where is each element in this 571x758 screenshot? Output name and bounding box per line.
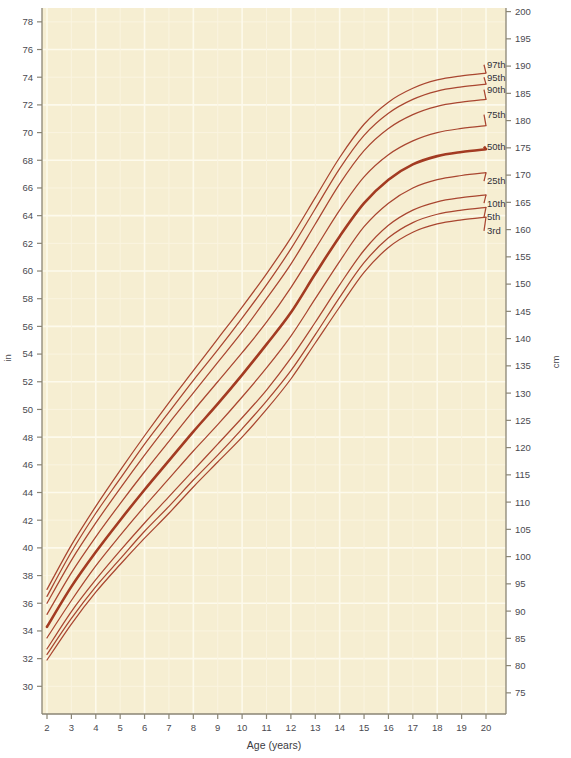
bottom-tick-label: 10: [237, 722, 248, 733]
bottom-tick-label: 6: [142, 722, 147, 733]
bottom-tick-label: 3: [69, 722, 74, 733]
right-tick-label: 135: [515, 360, 531, 371]
bottom-tick-label: 20: [481, 722, 492, 733]
right-tick-label: 95: [515, 578, 526, 589]
percentile-label-10th: 10th: [487, 198, 506, 209]
bottom-tick-label: 7: [166, 722, 171, 733]
left-tick-label: 44: [22, 487, 33, 498]
left-tick-label: 76: [22, 44, 33, 55]
percentile-label-25th: 25th: [487, 175, 506, 186]
bottom-tick-label: 8: [191, 722, 196, 733]
left-tick-label: 78: [22, 16, 33, 27]
left-tick-label: 66: [22, 182, 33, 193]
right-tick-label: 165: [515, 197, 531, 208]
left-tick-label: 54: [22, 348, 33, 359]
right-tick-label: 120: [515, 442, 531, 453]
bottom-tick-label: 5: [118, 722, 123, 733]
left-tick-label: 36: [22, 598, 33, 609]
left-tick-label: 42: [22, 515, 33, 526]
left-tick-label: 56: [22, 321, 33, 332]
percentile-label-3rd: 3rd: [487, 225, 501, 236]
right-tick-label: 105: [515, 524, 531, 535]
left-tick-label: 40: [22, 542, 33, 553]
x-axis-title: Age (years): [247, 739, 301, 751]
bottom-tick-label: 17: [408, 722, 419, 733]
left-tick-label: 62: [22, 238, 33, 249]
right-tick-label: 100: [515, 551, 531, 562]
left-tick-label: 74: [22, 72, 33, 83]
right-tick-label: 145: [515, 306, 531, 317]
left-axis-unit-label: in: [2, 354, 13, 361]
right-tick-label: 130: [515, 388, 531, 399]
plot-area-background: [42, 8, 506, 714]
left-tick-label: 46: [22, 459, 33, 470]
percentile-label-5th: 5th: [487, 211, 500, 222]
bottom-tick-label: 16: [383, 722, 394, 733]
right-tick-label: 155: [515, 251, 531, 262]
left-tick-label: 60: [22, 265, 33, 276]
right-tick-label: 90: [515, 606, 526, 617]
right-tick-label: 140: [515, 333, 531, 344]
bottom-tick-label: 12: [286, 722, 297, 733]
right-tick-label: 80: [515, 660, 526, 671]
left-tick-label: 64: [22, 210, 33, 221]
bottom-tick-label: 15: [359, 722, 370, 733]
percentile-label-90th: 90th: [487, 84, 506, 95]
stature-for-age-chart: 7876747270686664626058565452504846444240…: [0, 0, 571, 758]
bottom-tick-label: 4: [93, 722, 98, 733]
percentile-label-75th: 75th: [487, 109, 506, 120]
bottom-tick-label: 13: [310, 722, 321, 733]
right-tick-label: 195: [515, 33, 531, 44]
left-tick-label: 72: [22, 99, 33, 110]
left-tick-label: 32: [22, 653, 33, 664]
left-tick-label: 58: [22, 293, 33, 304]
right-tick-label: 160: [515, 224, 531, 235]
right-tick-label: 115: [515, 469, 530, 480]
right-tick-label: 170: [515, 169, 531, 180]
growth-chart-container: 7876747270686664626058565452504846444240…: [0, 0, 571, 758]
bottom-tick-label: 14: [334, 722, 345, 733]
bottom-tick-label: 11: [262, 722, 272, 733]
percentile-label-95th: 95th: [487, 72, 506, 83]
bottom-tick-label: 19: [456, 722, 467, 733]
bottom-tick-label: 18: [432, 722, 443, 733]
right-tick-label: 75: [515, 687, 526, 698]
percentile-leader-50th: [484, 146, 486, 149]
percentile-label-97th: 97th: [487, 59, 506, 70]
bottom-tick-label: 9: [215, 722, 220, 733]
left-tick-label: 38: [22, 570, 33, 581]
left-tick-label: 70: [22, 127, 33, 138]
right-tick-label: 200: [515, 6, 531, 17]
right-tick-label: 180: [515, 115, 531, 126]
right-tick-label: 150: [515, 278, 531, 289]
right-tick-label: 190: [515, 60, 531, 71]
right-tick-label: 175: [515, 142, 531, 153]
right-tick-label: 185: [515, 88, 531, 99]
bottom-tick-label: 2: [44, 722, 49, 733]
right-tick-label: 110: [515, 497, 530, 508]
left-tick-label: 50: [22, 404, 33, 415]
left-tick-label: 52: [22, 376, 33, 387]
right-axis-unit-label: cm: [550, 356, 561, 369]
left-tick-label: 68: [22, 155, 33, 166]
left-tick-label: 48: [22, 432, 33, 443]
right-tick-label: 125: [515, 415, 531, 426]
right-tick-label: 85: [515, 633, 526, 644]
left-tick-label: 34: [22, 625, 33, 636]
percentile-label-50th: 50th: [487, 141, 506, 152]
left-tick-label: 30: [22, 681, 33, 692]
